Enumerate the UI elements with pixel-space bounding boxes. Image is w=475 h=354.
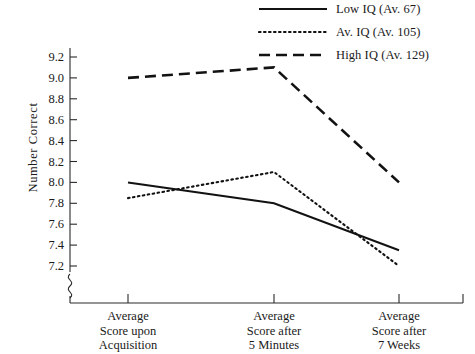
x-tick-marks: [128, 294, 399, 303]
legend-line-swatch: [258, 49, 328, 61]
y-axis-title: Number Correct: [26, 88, 41, 208]
axis-break-icon: [68, 274, 71, 298]
x-axis-label-line: 7 Weeks: [339, 338, 459, 353]
y-tick-label: 7.2: [30, 260, 64, 272]
legend-label: Av. IQ (Av. 105): [336, 26, 421, 38]
series-line-dotted: [128, 172, 399, 266]
x-axis-labels: AverageScore uponAcquisitionAverageScore…: [0, 309, 475, 354]
y-tick-label: 7.6: [30, 218, 64, 230]
legend-label: Low IQ (Av. 67): [336, 3, 420, 15]
y-tick-label: 9.2: [30, 51, 64, 63]
x-axis-label-line: Acquisition: [68, 338, 188, 353]
legend-item[interactable]: Av. IQ (Av. 105): [258, 25, 429, 39]
legend-label: High IQ (Av. 129): [336, 49, 429, 61]
y-tick-marks: [70, 57, 77, 266]
x-axis-category-label: AverageScore after5 Minutes: [214, 309, 334, 353]
chart-legend: Low IQ (Av. 67)Av. IQ (Av. 105)High IQ (…: [258, 2, 429, 62]
x-axis-label-line: 5 Minutes: [214, 338, 334, 353]
x-axis-category-label: AverageScore after7 Weeks: [339, 309, 459, 353]
x-axis-category-label: AverageScore uponAcquisition: [68, 309, 188, 353]
x-axis-label-line: Average: [68, 309, 188, 324]
legend-line-swatch: [258, 3, 328, 15]
legend-line-swatch: [258, 26, 328, 38]
x-axis-label-line: Average: [339, 309, 459, 324]
x-axis-label-line: Score after: [339, 324, 459, 339]
data-series-group: [128, 67, 399, 266]
y-tick-label: 9.0: [30, 72, 64, 84]
series-line-solid: [128, 182, 399, 250]
series-line-dashed: [128, 67, 399, 182]
x-axis-label-line: Average: [214, 309, 334, 324]
legend-item[interactable]: High IQ (Av. 129): [258, 48, 429, 62]
x-axis-label-line: Score after: [214, 324, 334, 339]
axis-lines: [68, 48, 463, 303]
y-tick-label: 7.4: [30, 239, 64, 251]
legend-item[interactable]: Low IQ (Av. 67): [258, 2, 429, 16]
line-chart: 9.29.08.88.68.48.28.07.87.67.47.2 Number…: [0, 0, 475, 354]
x-axis-label-line: Score upon: [68, 324, 188, 339]
